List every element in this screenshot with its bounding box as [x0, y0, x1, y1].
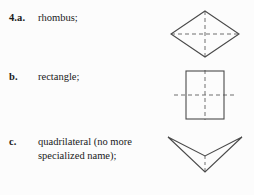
- rhombus-svg: [163, 8, 247, 60]
- rhombus-figure: [163, 8, 247, 60]
- item-label-c: c.: [9, 136, 17, 147]
- list-item: 4.a. rhombus;: [0, 8, 254, 60]
- rectangle-svg: [163, 67, 247, 123]
- list-item: b. rectangle;: [0, 67, 254, 125]
- dart-outline: [168, 137, 242, 172]
- rectangle-figure: [163, 67, 247, 123]
- dart-quadrilateral-svg: [163, 132, 247, 180]
- dart-quadrilateral-figure: [163, 132, 247, 180]
- item-text-c: quadrilateral (no more specialized name)…: [38, 135, 160, 162]
- list-item: c. quadrilateral (no more specialized na…: [0, 132, 254, 187]
- item-label-b: b.: [9, 71, 18, 82]
- item-text-a: rhombus;: [38, 11, 160, 25]
- item-text-b: rectangle;: [38, 70, 160, 84]
- item-label-a: 4.a.: [9, 12, 25, 23]
